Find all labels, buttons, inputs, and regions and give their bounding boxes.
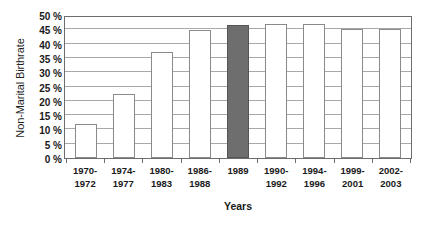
bar-slot xyxy=(181,17,219,158)
y-axis-tick-label: 30 % xyxy=(39,68,62,79)
x-axis-tick-label-line1: 1970- xyxy=(66,164,104,177)
x-axis-tick-label: 1974-1977 xyxy=(104,164,142,196)
y-axis-tick-label: 10 % xyxy=(39,125,62,136)
x-axis-tick-labels: 1970-19721974-19771980-19831986-19881989… xyxy=(64,164,412,196)
x-axis-tick-label-line2: 1983 xyxy=(142,177,180,190)
y-axis-tick-label: 5 % xyxy=(45,139,62,150)
x-axis-tick xyxy=(66,159,67,163)
x-axis-tick xyxy=(181,159,182,163)
bars-container xyxy=(65,17,411,158)
y-axis-tick-label: 45 % xyxy=(39,25,62,36)
x-axis-tick-label-line2: 2003 xyxy=(372,177,410,190)
bar-slot xyxy=(105,17,143,158)
x-axis-tick-label: 1990-1992 xyxy=(257,164,295,196)
bar-slot xyxy=(67,17,105,158)
bar-chart: Non-Marital Birthrate 0 %5 %10 %15 %20 %… xyxy=(0,0,427,226)
x-axis-tick-label-line1: 1980- xyxy=(142,164,180,177)
x-axis-tick-label: 1994-1996 xyxy=(295,164,333,196)
y-axis-tick-label: 40 % xyxy=(39,39,62,50)
x-axis-tick-label-line1: 2002- xyxy=(372,164,410,177)
x-axis-tick-label-line1: 1974- xyxy=(104,164,142,177)
x-axis-tick-label-line1: 1989 xyxy=(219,164,257,177)
x-axis-tick-label-line2: 2001 xyxy=(334,177,372,190)
y-axis-tick-label: 0 % xyxy=(45,154,62,165)
y-axis-tick-label: 15 % xyxy=(39,111,62,122)
bar-slot xyxy=(257,17,295,158)
x-axis-tick xyxy=(295,159,296,163)
bar[interactable] xyxy=(341,29,363,158)
x-axis-tick xyxy=(334,159,335,163)
plot-area xyxy=(64,16,412,159)
x-axis-tick-label-line1: 1994- xyxy=(295,164,333,177)
x-axis-tick-label-line2: 1992 xyxy=(257,177,295,190)
bar[interactable] xyxy=(189,30,211,158)
bar-slot xyxy=(371,17,409,158)
bar[interactable] xyxy=(151,52,173,158)
x-axis-tick-label: 1999-2001 xyxy=(334,164,372,196)
y-axis-tick-labels: 0 %5 %10 %15 %20 %25 %30 %35 %40 %45 %50… xyxy=(26,16,62,159)
x-axis-tick-label-line2: 1977 xyxy=(104,177,142,190)
x-axis-tick xyxy=(410,159,411,163)
x-axis-tick-label-line2: 1996 xyxy=(295,177,333,190)
x-axis-tick xyxy=(372,159,373,163)
plot-area-wrapper xyxy=(64,16,412,159)
bar[interactable] xyxy=(303,24,325,158)
x-axis-tick xyxy=(104,159,105,163)
bar[interactable] xyxy=(113,94,135,158)
x-axis-tick xyxy=(219,159,220,163)
x-axis-tick xyxy=(142,159,143,163)
bar[interactable] xyxy=(379,29,401,158)
x-axis-tick-label: 1986-1988 xyxy=(181,164,219,196)
bar-highlighted[interactable] xyxy=(227,25,249,158)
x-axis-tick-label-line2: 1988 xyxy=(181,177,219,190)
x-axis-tick-label: 1970-1972 xyxy=(66,164,104,196)
x-axis-title: Years xyxy=(64,200,412,212)
x-axis-ticks xyxy=(64,159,412,163)
bar-slot xyxy=(219,17,257,158)
x-axis-tick-label-line1: 1990- xyxy=(257,164,295,177)
x-axis-tick-label-line2: 1972 xyxy=(66,177,104,190)
y-axis-tick-label: 25 % xyxy=(39,82,62,93)
bar[interactable] xyxy=(75,124,97,158)
y-axis-tick-label: 35 % xyxy=(39,53,62,64)
x-axis-tick-label-line1: 1986- xyxy=(181,164,219,177)
x-axis-tick-label: 1980-1983 xyxy=(142,164,180,196)
bar-slot xyxy=(295,17,333,158)
bar-slot xyxy=(333,17,371,158)
y-axis-tick-label: 20 % xyxy=(39,96,62,107)
y-axis-tick-label: 50 % xyxy=(39,11,62,22)
bar-slot xyxy=(143,17,181,158)
x-axis-tick-label: 2002-2003 xyxy=(372,164,410,196)
x-axis-tick xyxy=(257,159,258,163)
x-axis-tick-label: 1989 xyxy=(219,164,257,196)
bar[interactable] xyxy=(265,24,287,158)
x-axis-tick-label-line1: 1999- xyxy=(334,164,372,177)
